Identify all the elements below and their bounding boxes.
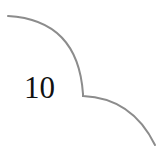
lower-arc xyxy=(83,94,155,145)
page-number: 10 xyxy=(24,72,55,103)
